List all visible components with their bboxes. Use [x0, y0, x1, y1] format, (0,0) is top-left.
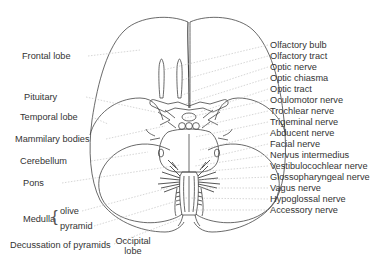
- leader-olfactory-tract: [182, 56, 268, 80]
- spinal-cord: [178, 215, 200, 226]
- label-decussation-of-pyramids: Decussation of pyramids: [10, 240, 111, 250]
- label-optic-tract: Optic tract: [270, 84, 312, 94]
- leader-hypoglossal-nerve: [185, 198, 268, 199]
- leader-optic-nerve: [182, 67, 268, 95]
- label-olfactory-tract: Olfactory tract: [270, 51, 327, 61]
- leader-mammilary-bodies: [106, 126, 165, 139]
- label-vestibulocochlear-nerve: Vestibulocochlear nerve: [270, 161, 368, 171]
- medulla-brace: {: [52, 208, 58, 225]
- label-oculomotor-nerve: Oculomotor nerve: [270, 95, 343, 105]
- label-cerebellum: Cerebellum: [20, 156, 67, 166]
- label-optic-chiasma: Optic chiasma: [270, 73, 328, 83]
- label-pyramid: pyramid: [60, 221, 93, 231]
- left-temporal-lobe: [90, 98, 163, 135]
- label-optic-nerve: Optic nerve: [270, 62, 317, 72]
- label-nervus-intermedius: Nervus intermedius: [270, 150, 349, 160]
- label-olfactory-bulb: Olfactory bulb: [270, 40, 327, 50]
- label-hypoglossal-nerve: Hypoglossal nerve: [270, 194, 346, 204]
- cranial-nerves-left: [158, 160, 180, 192]
- label-olive: olive: [60, 206, 79, 216]
- label-vagus-nerve: Vagus nerve: [270, 183, 321, 193]
- mammillary-body-center: [186, 123, 193, 130]
- leader-trigeminal-nerve: [195, 122, 268, 137]
- label-trochlear-nerve: Trochlear nerve: [270, 106, 334, 116]
- leader-temporal-lobe: [92, 117, 108, 124]
- trigeminal-nerve-left: [146, 129, 160, 140]
- leader-cerebellum: [91, 152, 148, 161]
- leader-pituitary: [86, 97, 155, 112]
- right-olfactory-tract: [177, 59, 182, 98]
- left-hemisphere-outline: [90, 17, 188, 232]
- label-accessory-nerve: Accessory nerve: [270, 205, 338, 215]
- leader-pyramid: [94, 200, 180, 226]
- label-medulla: Medulla: [23, 214, 55, 224]
- longitudinal-fissure: [188, 22, 189, 108]
- label-glossopharyngeal-nerve: Glossopharyngeal nerve: [270, 172, 370, 182]
- leader-lines: [62, 45, 268, 244]
- leader-abducent-nerve: [200, 133, 268, 150]
- label-occipital-lobe: Occipital lobe: [113, 236, 153, 256]
- pituitary-stalk: [182, 113, 196, 121]
- leader-optic-tract: [200, 89, 268, 112]
- label-pituitary: Pituitary: [24, 92, 57, 102]
- leader-vestibulocochlear-nerve: [198, 166, 268, 172]
- left-olfactory-tract: [159, 59, 164, 98]
- label-frontal-lobe: Frontal lobe: [22, 51, 71, 61]
- mammillary-body-left: [179, 123, 186, 130]
- brain-diagram: Frontal lobe Pituitary Temporal lobe Mam…: [0, 0, 373, 272]
- leader-facial-nerve: [198, 144, 268, 160]
- leader-frontal-lobe: [88, 50, 140, 56]
- label-trigeminal-nerve: Trigeminal nerve: [270, 117, 338, 127]
- label-occipital-line2: lobe: [113, 246, 153, 256]
- leader-olfactory-bulb: [163, 45, 268, 70]
- leader-pons: [62, 165, 180, 183]
- leader-glossopharyngeal-nerve: [196, 177, 268, 180]
- label-abducent-nerve: Abducent nerve: [270, 128, 334, 138]
- label-facial-nerve: Facial nerve: [270, 139, 320, 149]
- accessory-nerve-right: [201, 188, 203, 216]
- label-pons: Pons: [23, 178, 44, 188]
- mammillary-body-right: [193, 123, 200, 130]
- label-occipital-line1: Occipital: [113, 236, 153, 246]
- trigeminal-nerve-right: [218, 129, 232, 140]
- label-mammilary-bodies: Mammilary bodies: [15, 134, 90, 144]
- accessory-nerve-left: [175, 188, 177, 216]
- label-temporal-lobe: Temporal lobe: [20, 112, 78, 122]
